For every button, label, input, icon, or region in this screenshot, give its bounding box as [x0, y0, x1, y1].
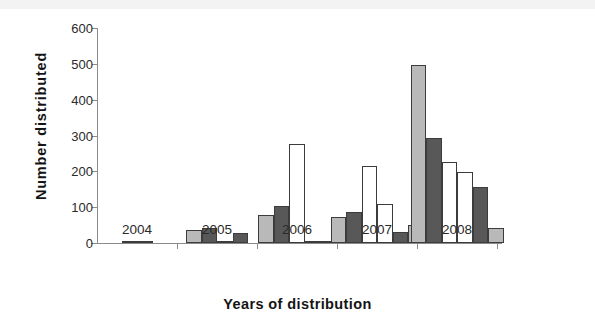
x-axis-category-label: 2007	[362, 222, 392, 237]
y-axis-line	[97, 28, 98, 243]
x-axis-separator-tick	[177, 243, 178, 249]
x-axis-separator-tick	[417, 243, 418, 249]
plot-area: 0100200300400500600	[97, 28, 497, 243]
chart-figure: Number distributed 0100200300400500600 Y…	[0, 0, 595, 331]
x-axis-separator-tick	[497, 243, 498, 249]
y-axis-tick-label: 100	[71, 201, 93, 214]
bar	[122, 241, 138, 243]
y-axis-tick-label: 400	[71, 93, 93, 106]
y-axis-tick-label: 0	[86, 237, 93, 250]
bar	[488, 228, 504, 243]
y-axis-label: Number distributed	[33, 21, 49, 231]
bar	[411, 65, 427, 243]
bar	[331, 217, 347, 243]
x-axis-category-label: 2005	[202, 222, 232, 237]
bar	[393, 232, 409, 243]
y-axis-tick-label: 300	[71, 129, 93, 142]
y-axis-tick-label: 200	[71, 165, 93, 178]
x-axis-category-label: 2004	[122, 222, 152, 237]
y-axis-tick-label: 500	[71, 57, 93, 70]
bar	[258, 215, 274, 243]
x-axis-category-label: 2008	[442, 222, 472, 237]
bar	[233, 233, 249, 243]
x-axis-category-label: 2006	[282, 222, 312, 237]
bar	[426, 138, 442, 243]
scan-artifact-band	[0, 0, 595, 9]
x-axis-line	[91, 243, 502, 244]
x-axis-separator-tick	[337, 243, 338, 249]
x-axis-separator-tick	[257, 243, 258, 249]
bar	[305, 241, 321, 244]
x-axis-label: Years of distribution	[0, 296, 595, 312]
y-axis-tick-label: 600	[71, 22, 93, 35]
bar	[346, 212, 362, 243]
bar	[473, 187, 489, 243]
bar	[186, 230, 202, 243]
bar	[137, 241, 153, 243]
bar	[217, 241, 233, 243]
